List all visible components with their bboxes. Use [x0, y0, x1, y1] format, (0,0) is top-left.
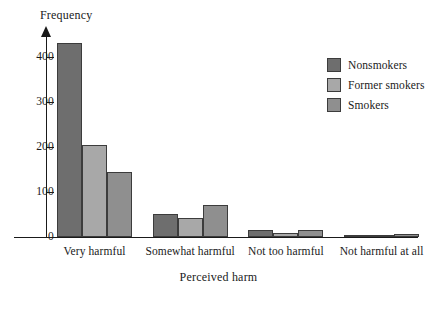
bar — [248, 230, 273, 237]
bar — [273, 233, 298, 238]
legend: NonsmokersFormer smokersSmokers — [327, 56, 424, 116]
bar — [298, 230, 323, 237]
bar — [203, 205, 228, 237]
x-axis-title: Perceived harm — [0, 270, 437, 285]
y-axis-title: Frequency — [40, 8, 92, 23]
bar — [369, 235, 394, 237]
bar — [57, 43, 82, 237]
bar-group — [248, 34, 333, 237]
legend-swatch — [327, 78, 341, 92]
bar-group — [153, 34, 238, 237]
legend-swatch — [327, 58, 341, 72]
bar — [153, 214, 178, 237]
bar-chart: Frequency 0100200300400 Very harmfulSome… — [0, 0, 437, 309]
bar — [344, 235, 369, 237]
legend-item: Smokers — [327, 96, 424, 114]
bar — [178, 218, 203, 237]
x-axis-line — [14, 237, 418, 238]
legend-item: Former smokers — [327, 76, 424, 94]
category-label: Not harmful at all — [322, 245, 437, 257]
legend-label: Nonsmokers — [348, 59, 407, 71]
bar-group — [57, 34, 142, 237]
legend-swatch — [327, 98, 341, 112]
legend-item: Nonsmokers — [327, 56, 424, 74]
legend-label: Smokers — [348, 99, 389, 111]
bar — [107, 172, 132, 237]
bar — [82, 145, 107, 237]
legend-label: Former smokers — [348, 79, 424, 91]
bar — [394, 234, 419, 237]
